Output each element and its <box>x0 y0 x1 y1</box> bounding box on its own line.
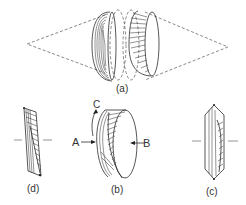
ray-cone-left <box>27 15 105 73</box>
lens-diagram: (a) (d) <box>0 0 246 205</box>
label-c: (d) <box>27 183 39 194</box>
left-lens <box>92 12 116 81</box>
label-d: (c) <box>206 186 218 197</box>
panel-b: C A B (b) <box>72 99 150 195</box>
panel-c: (d) <box>14 107 52 194</box>
panel-a: (a) <box>27 10 228 94</box>
label-arrow-b: B <box>143 137 150 149</box>
label-a: (a) <box>116 83 128 94</box>
panel-d: (c) <box>192 104 238 197</box>
virtual-surface-left <box>110 10 126 80</box>
right-lens <box>129 11 159 76</box>
label-arrow-a: A <box>72 136 80 148</box>
label-rotation-c: C <box>93 99 100 110</box>
label-b: (b) <box>111 184 123 195</box>
rotation-arrow-c <box>92 111 96 136</box>
